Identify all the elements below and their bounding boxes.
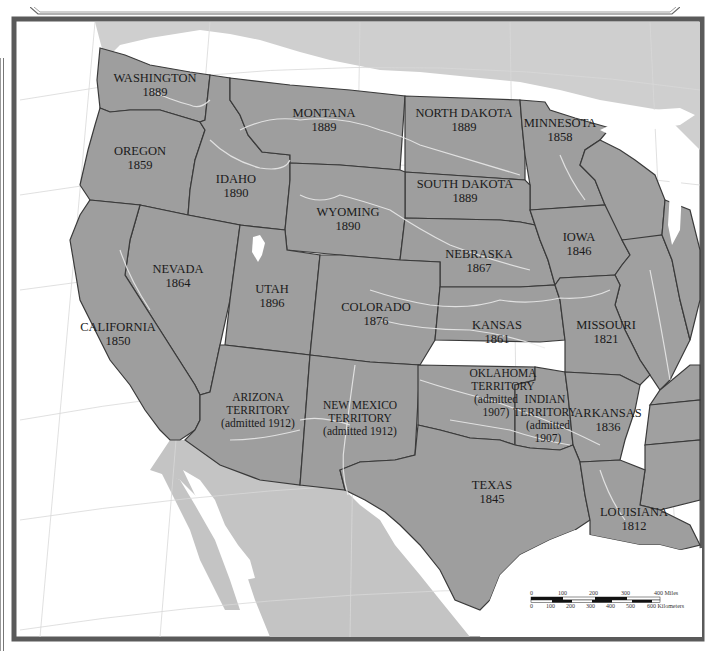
state-tennessee-ext (645, 400, 700, 445)
label-nebraska-name: NEBRASKA (445, 247, 512, 261)
scale-km-100: 100 (546, 603, 555, 609)
label-california-year: 1850 (106, 334, 131, 348)
scale-miles-0: 0 (530, 590, 533, 596)
label-idaho-year: 1890 (224, 186, 249, 200)
scale-km-500: 500 (626, 603, 635, 609)
label-oregon-name: OREGON (114, 144, 166, 158)
label-washington-year: 1889 (143, 85, 168, 99)
label-kansas-year: 1861 (485, 332, 510, 346)
map[interactable]: WASHINGTON 1889 OREGON 1859 IDAHO 1890 M… (0, 0, 711, 651)
label-oklahoma-line2: TERRITORY (471, 380, 535, 392)
label-south-dakota-year: 1889 (453, 191, 478, 205)
label-oklahoma-year: 1907) (483, 406, 510, 419)
label-new-mexico-line2: TERRITORY (328, 412, 392, 424)
label-oklahoma-name: OKLAHOMA (469, 367, 537, 379)
label-louisiana-name: LOUISIANA (600, 505, 668, 519)
label-wyoming-name: WYOMING (316, 205, 379, 219)
scale-km-200: 200 (566, 603, 575, 609)
label-indian-territory-name: INDIAN (525, 393, 567, 405)
label-south-dakota-name: SOUTH DAKOTA (417, 177, 514, 191)
scale-miles-100: 100 (558, 590, 567, 596)
state-mississippi-ext (640, 440, 700, 510)
label-wyoming-year: 1890 (336, 219, 361, 233)
label-minnesota-year: 1858 (548, 130, 573, 144)
label-missouri-year: 1821 (594, 332, 619, 346)
label-arkansas-name: ARKANSAS (574, 406, 641, 420)
label-nebraska-year: 1867 (467, 261, 492, 275)
label-montana-year: 1889 (312, 120, 337, 134)
scale-km-0: 0 (530, 603, 533, 609)
label-utah-name: UTAH (255, 282, 289, 296)
scale-km-600: 600 Kilometers (647, 603, 685, 609)
label-kansas-name: KANSAS (472, 318, 522, 332)
label-texas-year: 1845 (480, 492, 505, 506)
scale-miles-200: 200 (589, 590, 598, 596)
label-nevada-year: 1864 (166, 276, 192, 290)
label-missouri-name: MISSOURI (576, 318, 636, 332)
label-indian-territory-line2: TERRITORY (513, 406, 577, 418)
label-north-dakota-name: NORTH DAKOTA (415, 106, 512, 120)
label-oklahoma-line3: (admitted (474, 393, 518, 406)
label-washington-name: WASHINGTON (113, 71, 196, 85)
label-louisiana-year: 1812 (622, 519, 647, 533)
label-iowa-year: 1846 (567, 244, 592, 258)
label-montana-name: MONTANA (293, 106, 356, 120)
label-utah-year: 1896 (260, 296, 285, 310)
scale-km-400: 400 (606, 603, 615, 609)
label-arkansas-year: 1836 (596, 420, 621, 434)
label-oregon-year: 1859 (128, 158, 153, 172)
scale-miles-300: 300 (621, 590, 630, 596)
label-indian-territory-line3: (admitted (526, 419, 570, 432)
scale-km-300: 300 (586, 603, 595, 609)
label-nevada-name: NEVADA (152, 262, 203, 276)
label-colorado-name: COLORADO (341, 300, 410, 314)
label-arizona-line2: TERRITORY (226, 404, 290, 416)
label-north-dakota-year: 1889 (452, 120, 477, 134)
label-arizona-year: (admitted 1912) (221, 417, 295, 430)
label-minnesota-name: MINNESOTA (524, 116, 597, 130)
label-indian-territory-year: 1907) (535, 432, 562, 445)
label-new-mexico-name: NEW MEXICO (323, 399, 397, 411)
label-new-mexico-year: (admitted 1912) (323, 425, 397, 438)
label-california-name: CALIFORNIA (80, 320, 156, 334)
label-arizona-name: ARIZONA (232, 391, 284, 403)
label-iowa-name: IOWA (563, 230, 596, 244)
label-texas-name: TEXAS (472, 478, 512, 492)
scale-miles-400: 400 Miles (654, 590, 679, 596)
label-idaho-name: IDAHO (216, 172, 256, 186)
label-colorado-year: 1876 (364, 314, 389, 328)
